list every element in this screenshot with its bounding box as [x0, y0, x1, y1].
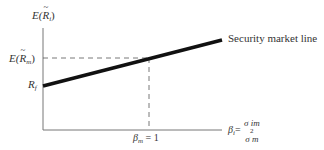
market-label-close: ) [31, 52, 35, 64]
market-return-label: E(Rm) [9, 53, 35, 66]
beta-i-eq: = [235, 124, 241, 135]
y-axis-label-r: R [42, 10, 49, 21]
sml-annotation: Security market line [228, 33, 317, 44]
rf-label-r: R [28, 78, 35, 90]
y-axis-label-close: ) [51, 9, 55, 21]
beta-m-eq: = 1 [143, 132, 159, 143]
risk-free-label: Rf [28, 79, 37, 92]
beta-m-label: βm = 1 [133, 133, 159, 145]
market-label-r: R [19, 53, 26, 64]
x-axis-label: βi= [228, 125, 241, 137]
y-axis-label: E(Ri) [32, 10, 55, 23]
security-market-line [43, 40, 222, 86]
beta-fraction: σ im 2 σ m [244, 119, 260, 144]
fraction-denominator: σ m [244, 135, 260, 144]
market-label-e: E( [9, 52, 19, 64]
y-axis-label-e: E( [32, 9, 42, 21]
rf-label-sub: f [35, 84, 37, 92]
